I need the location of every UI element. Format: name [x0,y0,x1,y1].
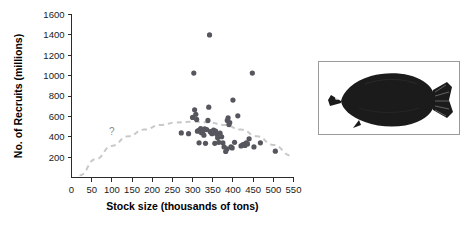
x-axis-title: Stock size (thousands of tons) [106,200,258,212]
figure-root: 2004006008001000120014001600050100150200… [0,0,471,225]
data-point [219,134,224,139]
data-point [179,130,184,135]
x-tick-label: 450 [245,184,261,195]
data-point [227,120,232,125]
data-point [250,70,255,75]
data-point [191,70,196,75]
y-tick-label: 1600 [43,9,64,20]
x-tick-label: 100 [104,184,120,195]
y-tick-label: 1200 [43,50,64,61]
x-tick-label: 150 [124,184,140,195]
data-point [196,140,201,145]
data-point [230,145,235,150]
x-tick-label: 550 [286,184,302,195]
x-tick-label: 0 [69,184,74,195]
data-point [247,136,252,141]
flatfish-photo-panel [318,61,460,135]
y-tick-label: 800 [49,90,65,101]
axis-spines [72,15,294,178]
y-axis-title: No. of Recruits (millions) [12,34,24,158]
x-tick-label: 500 [265,184,281,195]
flatfish-icon [319,62,459,134]
data-point [205,118,210,123]
data-point [258,140,263,145]
y-tick-label: 1000 [43,70,64,81]
data-point [232,140,237,145]
data-point [245,141,250,146]
data-point [207,32,212,37]
data-point [226,115,231,120]
stock-recruitment-chart: 2004006008001000120014001600050100150200… [0,0,310,225]
x-tick-label: 250 [164,184,180,195]
y-tick-label: 400 [49,131,65,142]
data-point [194,117,199,122]
data-point [186,131,191,136]
y-tick-label: 600 [49,111,65,122]
data-point [206,105,211,110]
curve-uncertainty-annotation: ? [109,126,115,137]
data-point [192,107,197,112]
data-point [201,133,206,138]
data-point [193,112,198,117]
scatter-plot-canvas: 2004006008001000120014001600050100150200… [0,0,310,225]
x-tick-label: 50 [86,184,97,195]
y-tick-label: 200 [49,152,65,163]
data-point [235,113,240,118]
x-tick-label: 200 [144,184,160,195]
x-tick-label: 400 [225,184,241,195]
y-tick-label: 1400 [43,29,64,40]
data-point [230,97,235,102]
data-point [203,141,208,146]
x-tick-label: 300 [185,184,201,195]
data-point [251,144,256,149]
data-point [273,149,278,154]
x-tick-label: 350 [205,184,221,195]
